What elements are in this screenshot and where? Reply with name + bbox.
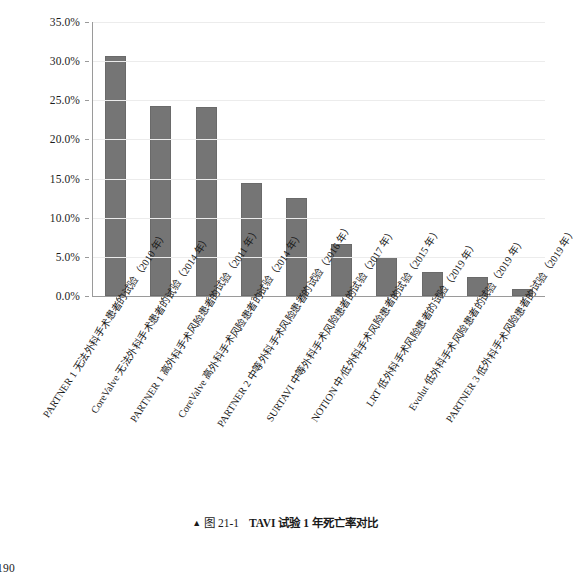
y-tick-label: 25.0% — [50, 94, 80, 106]
gridline — [93, 139, 545, 140]
gridline — [93, 22, 545, 23]
x-axis-labels: PARTNER 1 无法外科手术患者的试验（2010 年）CoreValve 无… — [0, 300, 570, 505]
y-tick-label: 5.0% — [56, 251, 80, 263]
bars-layer — [93, 22, 545, 296]
y-tick-mark — [85, 257, 89, 258]
y-tick-label: 10.0% — [50, 212, 80, 224]
y-tick-mark — [85, 296, 89, 297]
figure-caption: ▲图 21-1TAVI 试验 1 年死亡率对比 — [0, 515, 570, 531]
caption-figure-number: 图 21-1 — [204, 517, 239, 529]
plot-area — [92, 22, 545, 297]
y-tick-mark — [85, 218, 89, 219]
caption-marker-icon: ▲ — [192, 518, 201, 528]
gridline — [93, 218, 545, 219]
y-tick-label: 20.0% — [50, 133, 80, 145]
y-axis: 0.0%5.0%10.0%15.0%20.0%25.0%30.0%35.0% — [0, 0, 92, 320]
y-tick-label: 30.0% — [50, 55, 80, 67]
caption-title: TAVI 试验 1 年死亡率对比 — [249, 517, 378, 529]
gridline — [93, 179, 545, 180]
y-tick-mark — [85, 61, 89, 62]
y-tick-label: 35.0% — [50, 16, 80, 28]
bar — [196, 107, 217, 296]
gridline — [93, 61, 545, 62]
gridline — [93, 257, 545, 258]
y-tick-mark — [85, 22, 89, 23]
y-tick-mark — [85, 100, 89, 101]
gridline — [93, 100, 545, 101]
bar — [150, 106, 171, 296]
y-tick-mark — [85, 179, 89, 180]
bar — [105, 56, 126, 296]
y-tick-label: 15.0% — [50, 173, 80, 185]
page-number: 190 — [0, 562, 15, 574]
y-tick-mark — [85, 139, 89, 140]
